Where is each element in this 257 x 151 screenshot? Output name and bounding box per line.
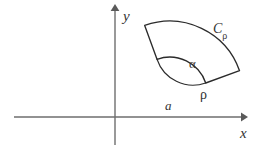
outer-radius-label: ρ xyxy=(200,88,207,102)
inner-radius-label: a xyxy=(165,99,172,112)
y-axis-arrowhead xyxy=(111,4,120,11)
angle-alpha-arc xyxy=(157,59,206,85)
outer-arc-label: Cρ xyxy=(213,22,227,39)
outer-arc-label-subscript: ρ xyxy=(222,30,227,41)
figure-canvas: y x a ρ α Cρ xyxy=(0,0,257,151)
x-axis-arrowhead xyxy=(241,113,248,122)
outer-arc-label-base: C xyxy=(213,21,222,36)
y-axis-label: y xyxy=(123,9,130,24)
angle-label: α xyxy=(189,57,196,70)
x-axis-label: x xyxy=(240,126,247,141)
